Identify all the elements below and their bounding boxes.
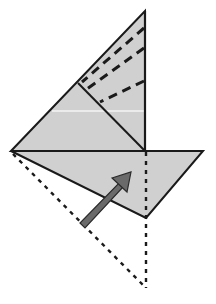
diagram-svg (0, 0, 216, 304)
origami-diagram (0, 0, 216, 304)
lower-flap-paper (11, 151, 203, 218)
